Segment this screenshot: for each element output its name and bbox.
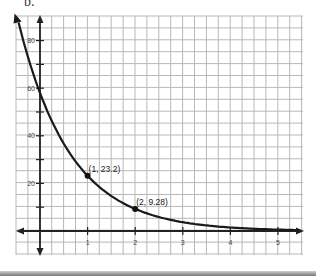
svg-text:2: 2	[133, 239, 137, 246]
svg-text:80: 80	[27, 37, 35, 44]
svg-text:40: 40	[27, 132, 35, 139]
svg-text:1: 1	[86, 239, 90, 246]
svg-text:4: 4	[228, 239, 232, 246]
svg-text:20: 20	[27, 180, 35, 187]
svg-text:60: 60	[27, 85, 35, 92]
svg-text:3: 3	[181, 239, 185, 246]
bottom-divider	[0, 271, 316, 276]
svg-text:(1, 23.2): (1, 23.2)	[89, 164, 121, 174]
svg-text:(2, 9.28): (2, 9.28)	[136, 197, 168, 207]
exponential-chart: 1234520406080 (1, 23.2)(2, 9.28)	[0, 0, 316, 276]
svg-text:5: 5	[276, 239, 280, 246]
